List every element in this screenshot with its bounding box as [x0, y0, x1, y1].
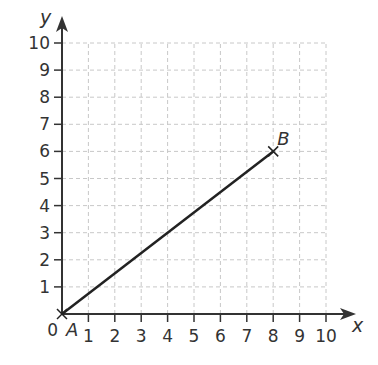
y-tick-label: 8: [39, 87, 50, 107]
y-tick-label: 10: [28, 33, 50, 53]
y-tick-label: 6: [39, 141, 50, 161]
coordinate-plane: 12345678910123456789100 xyAB: [0, 0, 378, 365]
x-tick-label: 5: [189, 326, 200, 346]
y-tick-label: 4: [39, 196, 50, 216]
x-axis-label: x: [351, 314, 364, 336]
y-axis-label: y: [39, 6, 52, 28]
x-tick-label: 10: [315, 326, 337, 346]
y-tick-label: 9: [39, 60, 50, 80]
axes: [56, 16, 356, 320]
x-tick-label: 7: [241, 326, 252, 346]
x-tick-label: 8: [268, 326, 279, 346]
x-tick-label: 2: [109, 326, 120, 346]
y-tick-label: 5: [39, 169, 50, 189]
y-tick-label: 3: [39, 223, 50, 243]
x-tick-label: 3: [136, 326, 147, 346]
point-label-b: B: [277, 128, 289, 149]
point-label-a: A: [65, 319, 78, 340]
y-tick-label: 7: [39, 114, 50, 134]
y-tick-label: 2: [39, 250, 50, 270]
x-tick-label: 9: [294, 326, 305, 346]
y-tick-label: 1: [39, 277, 50, 297]
x-tick-label: 6: [215, 326, 226, 346]
axis-labels: xyAB: [39, 6, 364, 340]
axis-ticks: 12345678910123456789100: [28, 33, 336, 346]
x-tick-label: 4: [162, 326, 173, 346]
grid-lines: [62, 43, 326, 314]
origin-label: 0: [47, 320, 58, 340]
x-tick-label: 1: [83, 326, 94, 346]
